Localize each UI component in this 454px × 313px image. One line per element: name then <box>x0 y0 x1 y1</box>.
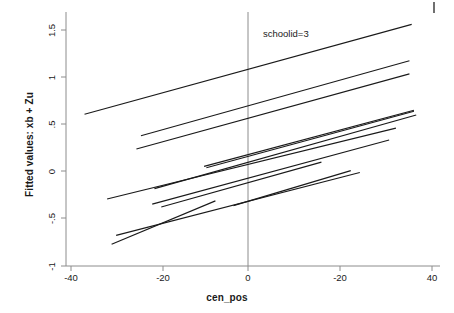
schoolid-annotation: schoolid=3 <box>263 28 309 39</box>
y-tick-label-3: .5 <box>46 110 57 140</box>
y-tick-label-4: 0 <box>46 157 57 187</box>
y-tick-label-6: -1 <box>46 252 57 282</box>
fitted-value-lines <box>85 24 417 244</box>
x-tick-label-3: 0 <box>228 272 268 283</box>
plot-canvas <box>0 0 454 313</box>
x-axis-ticks <box>71 266 432 271</box>
fitted-line <box>233 171 350 206</box>
y-tick-label-5: -.5 <box>46 204 57 234</box>
x-tick-label-5: 40 <box>412 272 452 283</box>
fitted-line <box>107 128 396 199</box>
fitted-line <box>141 61 410 136</box>
fitted-line <box>206 111 414 168</box>
y-axis-title: Fitted values: xb + Zu <box>24 60 35 230</box>
chart-screenshot: { "chart_data": { "type": "line", "title… <box>0 0 454 313</box>
y-tick-label-1: 1.5 <box>46 16 57 46</box>
x-tick-label-1: -40 <box>51 272 91 283</box>
y-tick-label-2: 1 <box>46 63 57 93</box>
x-axis-title: cen_pos <box>0 292 454 303</box>
y-axis-ticks <box>61 30 66 266</box>
fitted-line <box>204 110 414 166</box>
fitted-line <box>136 74 409 149</box>
x-tick-label-2: -20 <box>143 272 183 283</box>
x-tick-label-4: -20 <box>320 272 360 283</box>
fitted-line <box>161 162 321 207</box>
fitted-line <box>112 201 216 244</box>
